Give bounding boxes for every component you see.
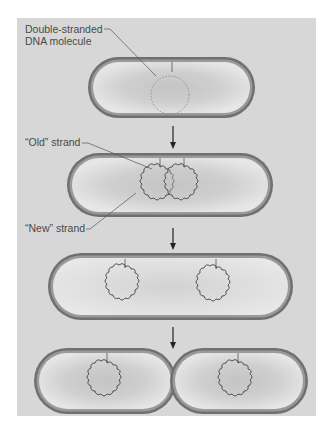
label-double-stranded: Double-stranded	[25, 23, 103, 35]
cytoplasm	[93, 62, 250, 113]
dna-new-strand	[164, 164, 198, 201]
daughter-cell-left-cytoplasm	[39, 353, 171, 409]
binary-fission-diagram: Double-stranded DNA molecule “Old” stran…	[0, 0, 330, 431]
cytoplasm	[53, 258, 288, 315]
label-new-strand: “New” strand	[25, 222, 85, 234]
daughter-cell-right-cytoplasm	[175, 353, 303, 409]
label-old-strand: “Old” strand	[25, 136, 81, 148]
label-dna-molecule: DNA molecule	[25, 35, 92, 47]
cell-stage-3	[48, 253, 293, 320]
